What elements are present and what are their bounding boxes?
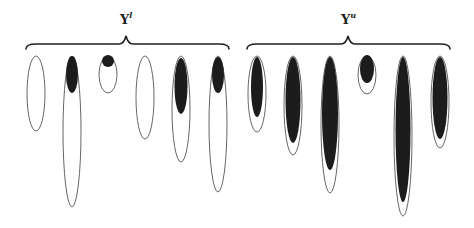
group-label-upper: Yu xyxy=(340,10,356,27)
ellipse-item xyxy=(394,56,412,216)
outline-ellipse xyxy=(27,56,45,131)
ellipse-item xyxy=(209,56,227,192)
ellipse-diagram: Yl Yu xyxy=(0,0,474,228)
brace-upper xyxy=(247,36,450,49)
filled-ellipse xyxy=(433,57,448,139)
ellipse-item xyxy=(172,56,190,162)
ellipse-item xyxy=(321,56,339,193)
brace-lower xyxy=(26,36,229,49)
filled-ellipse xyxy=(212,57,224,93)
group-label-lower: Yl xyxy=(119,10,132,27)
filled-ellipse xyxy=(396,57,411,202)
outline-ellipse xyxy=(136,56,154,139)
ellipse-item xyxy=(431,56,449,148)
filled-ellipse xyxy=(286,57,301,143)
filled-ellipse xyxy=(322,57,338,170)
ellipse-item xyxy=(27,56,45,131)
filled-ellipse xyxy=(360,55,374,83)
ellipse-item xyxy=(99,55,117,93)
group-lower: Yl xyxy=(26,10,229,207)
ellipse-set-lower xyxy=(27,55,227,207)
filled-ellipse xyxy=(175,58,188,114)
filled-ellipse xyxy=(251,57,263,117)
group-upper: Yu xyxy=(247,10,450,216)
ellipse-item xyxy=(63,56,81,207)
filled-ellipse xyxy=(66,56,78,93)
ellipse-item xyxy=(358,55,376,94)
ellipse-item xyxy=(136,56,154,139)
filled-ellipse xyxy=(102,55,114,67)
ellipse-item xyxy=(284,56,302,155)
ellipse-set-upper xyxy=(248,55,449,216)
ellipse-item xyxy=(248,56,266,132)
